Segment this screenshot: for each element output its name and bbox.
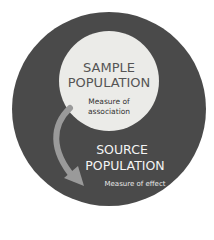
sample-sub: Measure of: [59, 97, 159, 106]
source-title: SOURCE: [62, 142, 182, 157]
sample-sub-2: association: [59, 107, 159, 116]
source-title-2: POPULATION: [50, 158, 200, 173]
source-sub: Measure of effect: [80, 180, 190, 188]
sample-title: SAMPLE: [59, 60, 159, 75]
sample-title-2: POPULATION: [59, 75, 159, 90]
